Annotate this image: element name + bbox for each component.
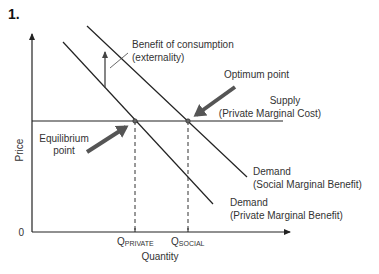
externality-diagram: 1. Price Quantity 0 Benefit of consumpti… [0, 0, 379, 274]
equilibrium-label-line2: point [53, 145, 75, 156]
demand-social-label-line2: (Social Marginal Benefit) [253, 179, 362, 190]
externality-label-line1: Benefit of consumption [132, 39, 234, 50]
equilibrium-pointer-arrow-icon [87, 127, 126, 152]
demand-private-label-line1: Demand [230, 197, 268, 208]
optimum-label: Optimum point [224, 69, 289, 80]
q-private-sub: PRIVATE [125, 240, 154, 247]
demand-private-label-line2: (Private Marginal Benefit) [230, 210, 343, 221]
equilibrium-point-marker [133, 119, 137, 123]
optimum-point-marker [186, 119, 190, 123]
q-social-label: QSOCIAL [171, 236, 205, 247]
externality-label-line2: (externality) [132, 52, 184, 63]
equilibrium-label-line1: Equilibrium [39, 133, 88, 144]
supply-label-line2: (Private Marginal Cost) [219, 108, 321, 119]
demand-social-label-line1: Demand [253, 166, 291, 177]
q-social-sub: SOCIAL [179, 240, 205, 247]
origin-label: 0 [18, 227, 24, 238]
supply-label-line1: Supply [270, 95, 301, 106]
externality-leader-line [110, 53, 128, 68]
q-private-label: QPRIVATE [117, 236, 154, 247]
x-axis-label: Quantity [141, 251, 178, 262]
figure-number: 1. [8, 6, 20, 22]
y-axis-label: Price [14, 138, 25, 161]
